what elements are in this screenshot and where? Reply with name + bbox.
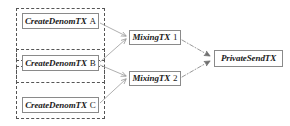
edge-mixing2-to-private: [182, 61, 210, 77]
node-create-denom-tx-b[interactable]: CreateDenomTX B: [22, 55, 99, 71]
node-mixing-tx-1[interactable]: MixingTX 1: [129, 30, 181, 45]
node-label-private-send-tx: PrivateSendTX: [221, 54, 276, 63]
node-suffix-create-denom-tx-c: C: [90, 101, 96, 110]
edge-mixing1-to-private: [182, 40, 210, 56]
node-create-denom-tx-c[interactable]: CreateDenomTX C: [22, 97, 99, 113]
node-suffix-mixing-tx-1: 1: [173, 33, 178, 42]
node-private-send-tx[interactable]: PrivateSendTX: [214, 50, 283, 67]
node-label-mixing-tx-2: MixingTX: [132, 74, 170, 83]
node-create-denom-tx-a[interactable]: CreateDenomTX A: [22, 13, 99, 29]
node-label-create-denom-tx-c: CreateDenomTX: [25, 101, 87, 110]
node-mixing-tx-2[interactable]: MixingTX 2: [129, 71, 181, 86]
node-label-create-denom-tx-a: CreateDenomTX: [25, 17, 87, 26]
node-label-create-denom-tx-b: CreateDenomTX: [25, 59, 87, 68]
node-suffix-create-denom-tx-b: B: [90, 59, 96, 68]
node-suffix-create-denom-tx-a: A: [90, 17, 97, 26]
privatesend-transaction-flow-diagram: CreateDenomTX A CreateDenomTX B CreateDe…: [0, 0, 290, 126]
node-label-mixing-tx-1: MixingTX: [132, 33, 170, 42]
node-suffix-mixing-tx-2: 2: [173, 74, 178, 83]
